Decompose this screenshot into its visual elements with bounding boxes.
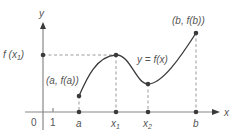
x1-label: x1 [110,118,120,130]
point-b-label: (b, f(b)) [172,15,205,26]
a-label: a [76,118,82,129]
curve-label: y = f(x) [136,54,168,65]
fx1-label: f (x1) [3,49,24,61]
point-fx1 [114,53,119,58]
point-fx2 [146,82,151,87]
function-extrema-diagram: y x 0 1 a x1 x2 b f (x1) (a, f(a)) (b, f… [0,0,236,137]
point-fb [194,31,199,36]
x-axis-arrow-icon [212,109,220,115]
x-axis-label: x [223,107,230,118]
origin-label: 0 [31,117,37,128]
tick-one-label: 1 [50,117,56,128]
point-b-axis [194,110,199,115]
point-x2-axis [146,110,151,115]
point-a-label: (a, f(a)) [46,75,79,86]
y-axis-label: y [38,8,45,19]
b-label: b [193,118,199,129]
x2-label: x2 [142,118,152,130]
point-fx1-on-y-axis [41,53,46,58]
point-x1-axis [114,110,119,115]
point-fa [77,94,82,99]
y-axis-arrow-icon [40,22,46,29]
point-a-axis [77,110,82,115]
